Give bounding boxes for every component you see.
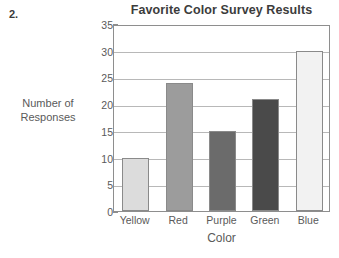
y-axis-tick-label: 5 xyxy=(89,180,113,190)
y-axis-tick-label: 15 xyxy=(89,127,113,137)
x-axis-title: Color xyxy=(113,231,330,245)
bar-red xyxy=(166,83,193,211)
y-axis-tick-label: 20 xyxy=(89,100,113,110)
x-axis-tick-label-green: Green xyxy=(243,214,286,226)
y-axis-tick-label: 0 xyxy=(89,207,113,217)
bar-green xyxy=(252,99,279,211)
x-axis-tick-label-purple: Purple xyxy=(200,214,243,226)
question-number: 2. xyxy=(9,8,18,20)
y-axis-tick-label: 30 xyxy=(89,47,113,57)
y-axis-title-line-1: Number of xyxy=(6,96,90,110)
x-axis-tick-label-yellow: Yellow xyxy=(113,214,156,226)
plot-area xyxy=(113,25,330,212)
bar-yellow xyxy=(122,158,149,211)
y-axis-ticks: 05101520253035 xyxy=(83,25,113,212)
bar-blue xyxy=(296,51,323,211)
chart-title: Favorite Color Survey Results xyxy=(113,3,330,17)
x-axis-tick-labels: YellowRedPurpleGreenBlue xyxy=(113,214,330,230)
y-axis-title: Number of Responses xyxy=(6,96,90,124)
y-axis-tick-label: 35 xyxy=(89,20,113,30)
x-axis-tick-label-red: Red xyxy=(156,214,199,226)
y-axis-tick-label: 10 xyxy=(89,154,113,164)
bar-purple xyxy=(209,131,236,211)
bars-layer xyxy=(114,26,329,211)
x-axis-tick-label-blue: Blue xyxy=(287,214,330,226)
y-axis-title-line-2: Responses xyxy=(6,110,90,124)
y-axis-tick-label: 25 xyxy=(89,73,113,83)
